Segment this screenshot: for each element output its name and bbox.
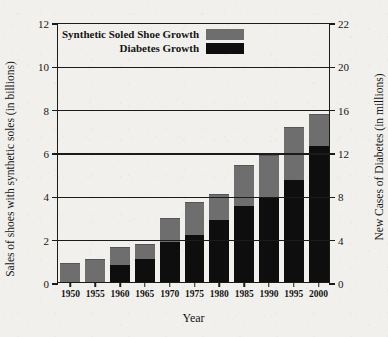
x-axis-tick-label: 1970: [160, 289, 179, 299]
legend-label: Diabetes Growth: [119, 42, 199, 54]
y-axis-right-tick-mark: [329, 153, 335, 155]
bar-group: [209, 22, 229, 282]
x-axis-tick-label: 1960: [111, 289, 130, 299]
plot-area: 024681012 04812162022 195019551960196519…: [57, 23, 330, 283]
legend-label: Synthetic Soled Shoe Growth: [62, 28, 199, 40]
bar-group: [259, 22, 279, 282]
y-axis-right-tick-mark: [329, 283, 335, 285]
y-axis-right-tick-label: 12: [338, 149, 349, 160]
y-axis-right-title-text: New Cases of Diabetes (in millions): [373, 73, 385, 240]
bar-synthetic-soled-shoe-growth: [60, 263, 80, 282]
y-axis-right-tick-mark: [329, 67, 335, 69]
x-axis-tick-mark: [144, 282, 146, 287]
legend-swatch-black: [206, 43, 244, 54]
x-axis-tick-mark: [194, 282, 196, 287]
bar-group: [60, 22, 80, 282]
bar-diabetes-growth: [160, 242, 180, 282]
y-axis-left-tick-mark: [52, 283, 58, 285]
gridline: [58, 110, 329, 112]
x-axis-tick-mark: [318, 282, 320, 287]
x-axis-tick-label: 1990: [259, 289, 278, 299]
legend-swatch-gray: [206, 29, 244, 40]
bar-diabetes-growth: [110, 265, 130, 282]
gridline: [58, 197, 329, 199]
y-axis-left-tick-label: 4: [44, 192, 50, 203]
y-axis-right-tick-label: 20: [338, 62, 349, 73]
bar-group: [85, 22, 105, 282]
y-axis-right-tick-label: 16: [338, 105, 349, 116]
x-axis-tick-mark: [94, 282, 96, 287]
y-axis-left-tick-label: 2: [44, 235, 50, 246]
x-axis-tick-label: 1965: [135, 289, 154, 299]
chart-figure: Sales of shoes with synthetic soles (in …: [0, 0, 388, 337]
bar-diabetes-growth: [284, 180, 304, 282]
y-axis-left-tick-label: 8: [44, 105, 50, 116]
bar-group: [110, 22, 130, 282]
bar-diabetes-growth: [309, 146, 329, 283]
y-axis-left-tick-label: 12: [38, 19, 49, 30]
y-axis-left-title-text: Sales of shoes with synthetic soles (in …: [4, 61, 16, 277]
y-axis-right-tick-mark: [329, 240, 335, 242]
bar-group: [135, 22, 155, 282]
x-axis-tick-mark: [268, 282, 270, 287]
x-axis-tick-mark: [293, 282, 295, 287]
x-axis-tick-label: 1985: [235, 289, 254, 299]
gridline: [58, 153, 329, 155]
x-axis-title: Year: [57, 311, 330, 326]
x-axis-tick-label: 1975: [185, 289, 204, 299]
legend-item-synthetic-soled-shoe-growth: Synthetic Soled Shoe Growth: [62, 28, 244, 40]
legend-item-diabetes-growth: Diabetes Growth: [62, 42, 244, 54]
bar-synthetic-soled-shoe-growth: [85, 259, 105, 282]
bar-diabetes-growth: [209, 220, 229, 282]
bar-group: [185, 22, 205, 282]
x-axis-tick-mark: [119, 282, 121, 287]
y-axis-right-tick-mark: [329, 23, 335, 25]
y-axis-left-tick-label: 0: [44, 279, 50, 290]
x-axis-tick-label: 1950: [61, 289, 80, 299]
x-axis-tick-label: 1995: [284, 289, 303, 299]
y-axis-right-tick-label: 0: [338, 279, 344, 290]
bar-group: [234, 22, 254, 282]
x-axis-tick-mark: [243, 282, 245, 287]
bar-group: [309, 22, 329, 282]
x-axis-tick-mark: [70, 282, 72, 287]
y-axis-left-title: Sales of shoes with synthetic soles (in …: [2, 0, 18, 337]
x-axis-tick-label: 1955: [86, 289, 105, 299]
y-axis-right-tick-label: 22: [338, 19, 349, 30]
bar-diabetes-growth: [135, 259, 155, 282]
y-axis-right-tick-mark: [329, 197, 335, 199]
y-axis-left-tick-label: 6: [44, 149, 50, 160]
y-axis-right-tick-label: 4: [338, 235, 344, 246]
x-axis-tick-label: 1980: [210, 289, 229, 299]
gridline: [58, 67, 329, 69]
x-axis-tick-mark: [169, 282, 171, 287]
y-axis-right-tick-label: 8: [338, 192, 344, 203]
x-axis-tick-label: 2000: [309, 289, 328, 299]
y-axis-right-title: New Cases of Diabetes (in millions): [371, 0, 387, 313]
y-axis-right-tick-mark: [329, 110, 335, 112]
y-axis-left-tick-label: 10: [38, 62, 49, 73]
bar-group: [284, 22, 304, 282]
bar-diabetes-growth: [234, 206, 254, 282]
x-axis-tick-mark: [219, 282, 221, 287]
gridline: [58, 240, 329, 242]
bar-diabetes-growth: [185, 235, 205, 282]
bar-group: [160, 22, 180, 282]
chart-legend: Synthetic Soled Shoe Growth Diabetes Gro…: [62, 28, 244, 54]
